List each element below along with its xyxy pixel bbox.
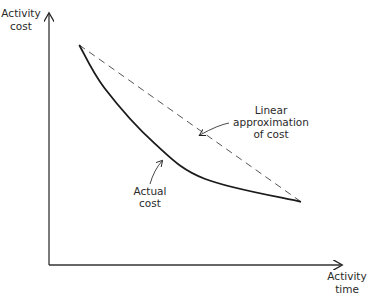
x-axis-label-line2: time: [335, 283, 359, 295]
linear-annotation-arrow: [200, 123, 229, 135]
linear-annotation-line2: approximation: [233, 116, 309, 128]
cost-time-diagram: Activity cost Activity time Linear appro…: [0, 0, 369, 297]
linear-annotation-line3: of cost: [253, 128, 288, 140]
x-axis-label-line1: Activity: [327, 270, 366, 282]
linear-annotation-line1: Linear: [255, 104, 288, 116]
actual-annotation-line1: Actual: [134, 185, 167, 197]
actual-annotation-line2: cost: [139, 197, 161, 209]
actual-annotation-arrow: [150, 161, 162, 184]
y-axis-label-line1: Activity: [1, 7, 40, 19]
y-axis-label-line2: cost: [10, 20, 32, 32]
